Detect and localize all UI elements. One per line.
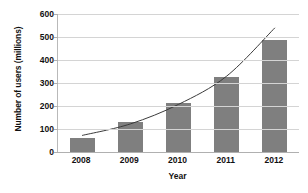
y-axis-tickmark	[54, 106, 58, 107]
bar	[70, 138, 95, 152]
y-axis-tickmark	[54, 129, 58, 130]
gridline	[58, 60, 299, 61]
y-axis-tick-label: 300	[24, 79, 54, 88]
y-axis-tickmark	[54, 152, 58, 153]
y-axis-title: Number of users (millions)	[13, 4, 23, 154]
bar	[118, 122, 143, 152]
y-axis-tickmark	[54, 83, 58, 84]
y-axis-tickmark	[54, 60, 58, 61]
axis-baseline	[58, 152, 299, 153]
gridline	[58, 14, 299, 15]
x-axis-tick-label: 2011	[216, 155, 234, 165]
y-axis-tick-label: 600	[24, 10, 54, 19]
gridline	[58, 37, 299, 38]
gridline	[58, 129, 299, 130]
bar-chart: Number of users (millions) 0100200300400…	[0, 0, 308, 193]
y-axis-tickmark	[54, 37, 58, 38]
plot-area	[57, 14, 298, 152]
x-axis-tick-label: 2008	[72, 155, 91, 165]
x-axis-tick-label: 2009	[120, 155, 139, 165]
x-axis-tick-label: 2012	[264, 155, 283, 165]
x-axis-title: Year	[57, 171, 298, 181]
y-axis-tick-label: 500	[24, 33, 54, 42]
y-axis-tick-label: 200	[24, 102, 54, 111]
y-axis-tick-labels: 0100200300400500600	[24, 0, 54, 193]
gridline	[58, 106, 299, 107]
y-axis-tick-label: 0	[24, 148, 54, 157]
y-axis-tickmark	[54, 14, 58, 15]
y-axis-tick-label: 100	[24, 125, 54, 134]
x-axis-tick-label: 2010	[168, 155, 187, 165]
bar	[262, 40, 287, 152]
x-axis-tick-labels: 20082009201020112012	[57, 155, 298, 169]
gridline	[58, 83, 299, 84]
bar	[214, 77, 239, 152]
y-axis-tick-label: 400	[24, 56, 54, 65]
bar	[166, 103, 191, 152]
